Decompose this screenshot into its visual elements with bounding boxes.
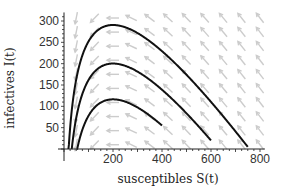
field-arrow (126, 57, 137, 62)
field-arrow (238, 41, 245, 50)
field-arrow (126, 43, 137, 48)
field-arrow (145, 57, 155, 64)
x-ticks: 200400600800 (103, 152, 270, 166)
y-tick-label: 250 (39, 35, 59, 49)
x-tick-label: 200 (103, 152, 123, 166)
field-arrow (182, 42, 190, 51)
trajectory-3 (77, 99, 162, 149)
field-arrow (126, 72, 137, 77)
field-arrow (238, 56, 245, 65)
y-tick-label: 50 (46, 121, 60, 135)
field-arrow (182, 126, 190, 135)
field-arrow (256, 84, 263, 94)
field-arrow (126, 114, 137, 119)
field-arrow (256, 126, 263, 136)
field-arrow (107, 16, 119, 20)
field-arrow (238, 70, 245, 79)
field-arrow (107, 115, 119, 119)
x-tick-label: 800 (250, 152, 270, 166)
field-arrow (145, 85, 155, 92)
field-arrow (201, 42, 209, 51)
field-arrow (219, 13, 227, 22)
field-arrow (256, 27, 263, 37)
field-arrow (90, 126, 98, 135)
field-arrow (145, 127, 155, 134)
field-arrow (256, 13, 263, 23)
field-arrow (74, 12, 78, 24)
y-ticks: 50100150200250300 (39, 14, 59, 135)
field-arrow (201, 56, 209, 65)
field-arrow (145, 99, 155, 106)
field-arrow (256, 55, 263, 65)
field-arrow (145, 29, 155, 36)
field-arrow (238, 126, 245, 135)
field-arrow (201, 14, 209, 23)
field-arrow (164, 42, 173, 50)
field-arrow (107, 86, 119, 90)
field-arrow (126, 128, 137, 133)
field-arrow (238, 27, 245, 36)
field-arrow (256, 41, 263, 51)
field-arrow (238, 112, 245, 121)
field-arrow (238, 84, 245, 93)
field-arrow (182, 56, 190, 65)
field-arrow (164, 98, 173, 106)
x-tick-label: 400 (152, 152, 172, 166)
field-arrow (164, 113, 173, 121)
y-axis-label: infectives I(t) (3, 47, 17, 128)
field-arrow (219, 98, 227, 107)
field-arrow (107, 30, 119, 34)
field-arrow (164, 70, 173, 78)
field-arrow (90, 14, 98, 23)
field-arrow (145, 14, 155, 21)
field-arrow (219, 42, 227, 51)
field-arrow (90, 56, 98, 65)
field-arrow (238, 13, 245, 22)
field-arrow (182, 14, 190, 23)
field-arrow (107, 44, 119, 48)
field-arrow (164, 28, 173, 36)
field-arrow (126, 15, 137, 20)
y-tick-label: 100 (39, 99, 59, 113)
field-arrow (256, 98, 263, 108)
field-arrow (164, 141, 173, 149)
x-tick-label: 600 (201, 152, 221, 166)
field-arrow (164, 127, 173, 135)
y-tick-label: 200 (39, 57, 59, 71)
field-arrow (107, 101, 119, 105)
field-arrow (219, 126, 227, 135)
field-arrow (219, 27, 227, 36)
field-arrow (90, 112, 98, 121)
field-arrow (74, 26, 78, 38)
field-arrow (107, 58, 119, 62)
field-arrow (256, 70, 263, 80)
field-arrow (219, 84, 227, 93)
y-tick-label: 300 (39, 14, 59, 28)
field-arrow (107, 129, 119, 133)
x-axis-label: susceptibles S(t) (117, 172, 218, 186)
field-arrow (201, 112, 209, 121)
field-arrow (238, 98, 245, 107)
field-arrow (90, 140, 98, 149)
field-arrow (74, 97, 78, 109)
field-arrow (182, 140, 190, 149)
field-arrow (182, 28, 190, 37)
field-arrow (182, 84, 190, 93)
field-arrow (145, 141, 155, 148)
field-arrow (74, 54, 78, 66)
field-arrow (126, 142, 137, 147)
phase-plane-chart: 200400600800 50100150200250300 susceptib… (0, 0, 287, 191)
field-arrow (219, 70, 227, 79)
field-arrow (256, 140, 263, 150)
field-arrow (107, 72, 119, 76)
field-arrow (164, 14, 173, 22)
field-arrow (182, 98, 190, 107)
field-arrow (201, 70, 209, 79)
field-arrow (219, 140, 227, 149)
axes (58, 12, 265, 161)
field-arrow (90, 84, 98, 93)
field-arrow (107, 143, 119, 147)
field-arrow (201, 28, 209, 37)
field-arrow (219, 56, 227, 65)
field-arrow (256, 112, 263, 122)
